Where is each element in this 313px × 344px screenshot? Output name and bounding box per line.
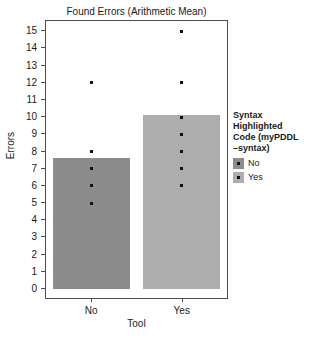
legend-title-line: –syntax): [233, 143, 313, 154]
legend-title: SyntaxHighlightedCode (myPDDL–syntax): [233, 110, 313, 154]
data-point: [90, 184, 93, 187]
legend-items: NoYes: [233, 157, 313, 184]
data-point: [180, 150, 183, 153]
x-tick-label-no: No: [85, 305, 98, 317]
chart-container: Found Errors (Arithmetic Mean) Errors 01…: [0, 0, 313, 344]
x-tick-mark: [182, 298, 183, 302]
x-tick-label-yes: Yes: [174, 305, 190, 317]
legend-swatch-dot-icon: [237, 162, 240, 165]
data-point: [180, 133, 183, 136]
y-tick-label: 3: [31, 231, 37, 242]
data-point: [180, 184, 183, 187]
y-tick-label: 11: [27, 94, 37, 105]
bar-yes: [143, 115, 220, 289]
legend-title-line: Syntax: [233, 110, 313, 121]
y-tick-label: 2: [31, 249, 37, 260]
data-point: [180, 30, 183, 33]
plot-area: [46, 21, 227, 298]
data-point: [90, 81, 93, 84]
data-point: [180, 167, 183, 170]
y-tick-label: 7: [31, 163, 37, 174]
y-tick-label: 4: [31, 214, 37, 225]
legend-label: Yes: [248, 172, 263, 183]
legend-label: No: [248, 158, 260, 169]
bar-no: [53, 158, 130, 289]
chart-title: Found Errors (Arithmetic Mean): [45, 6, 228, 18]
legend-swatch-icon: [233, 172, 244, 183]
y-tick-label: 12: [26, 77, 37, 88]
data-point: [90, 202, 93, 205]
y-tick-label: 6: [31, 180, 37, 191]
data-point: [90, 150, 93, 153]
legend-item-yes[interactable]: Yes: [233, 171, 313, 184]
y-tick-label: 5: [31, 197, 37, 208]
legend: SyntaxHighlightedCode (myPDDL–syntax) No…: [233, 110, 313, 184]
legend-item-no[interactable]: No: [233, 157, 313, 170]
data-point: [180, 81, 183, 84]
y-tick-label: 9: [31, 128, 37, 139]
legend-swatch-icon: [233, 158, 244, 169]
y-tick-label: 1: [31, 266, 37, 277]
x-tick-mark: [91, 298, 92, 302]
data-point: [180, 116, 183, 119]
x-axis-label: Tool: [45, 318, 228, 330]
y-tick-label: 8: [31, 146, 37, 157]
legend-title-line: Code (myPDDL: [233, 132, 313, 143]
y-tick-label: 13: [26, 60, 37, 71]
data-point: [90, 167, 93, 170]
y-axis-ticks: 0123456789101112131415: [0, 0, 45, 344]
legend-swatch-dot-icon: [237, 176, 240, 179]
y-tick-label: 10: [26, 111, 37, 122]
legend-title-line: Highlighted: [233, 121, 313, 132]
y-tick-label: 0: [31, 283, 37, 294]
y-tick-label: 15: [26, 25, 37, 36]
y-tick-label: 14: [26, 42, 37, 53]
